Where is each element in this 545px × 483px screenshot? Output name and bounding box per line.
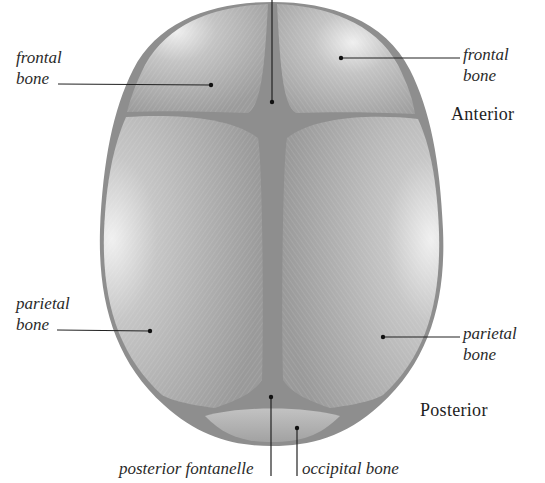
label-frontal-bone-left: frontal bone [16,47,62,89]
skull-diagram: frontal bone frontal bone Anterior parie… [0,0,545,483]
label-line: frontal [463,44,509,65]
label-line: bone [463,344,517,365]
orientation-posterior: Posterior [420,400,488,421]
label-line: bone [16,314,70,335]
label-line: parietal [16,293,70,314]
label-line: frontal [16,47,62,68]
label-occipital-bone: occipital bone [302,458,399,479]
label-posterior-fontanelle: posterior fontanelle [119,458,254,479]
orientation-anterior: Anterior [451,104,514,125]
label-line: bone [16,68,62,89]
label-parietal-bone-right: parietal bone [463,323,517,365]
label-line: parietal [463,323,517,344]
label-frontal-bone-right: frontal bone [463,44,509,86]
label-line: bone [463,65,509,86]
label-parietal-bone-left: parietal bone [16,293,70,335]
